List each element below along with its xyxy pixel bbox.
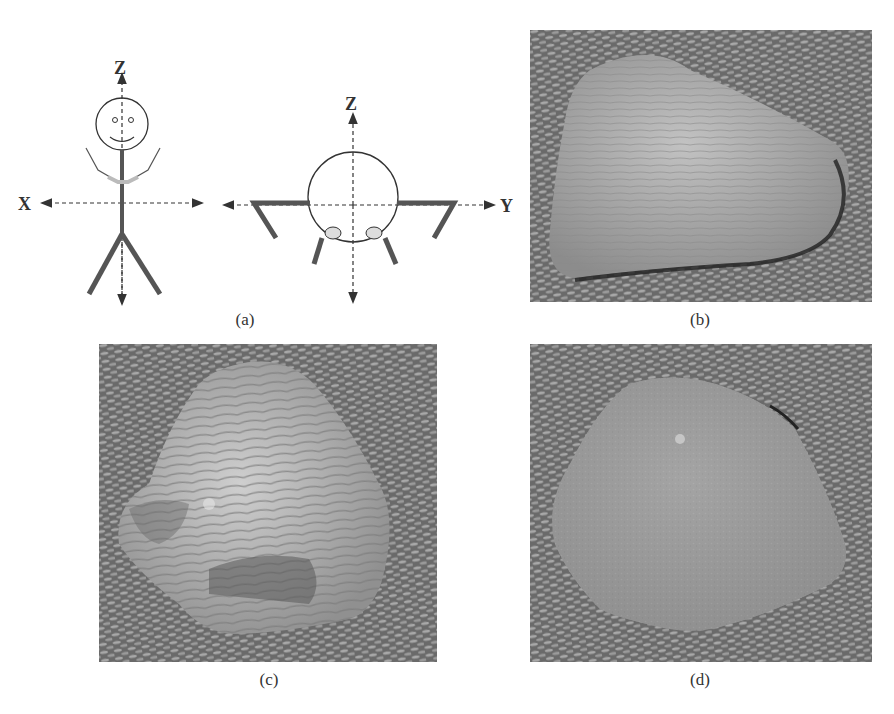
caption-b: (b) xyxy=(680,310,720,330)
panel-c-photo xyxy=(99,344,437,662)
z-axis-label-left: Z xyxy=(114,60,126,78)
y-axis-label: Y xyxy=(500,196,513,216)
front-view-figure: Z X xyxy=(18,60,198,300)
caption-d: (d) xyxy=(680,670,720,690)
caption-c: (c) xyxy=(249,670,289,690)
panel-a-diagram: Z X Z xyxy=(0,60,520,310)
stone-b-image xyxy=(530,30,872,302)
panel-b-photo xyxy=(530,30,872,302)
coordinate-diagram: Z X Z xyxy=(0,60,520,310)
z-axis-label-right: Z xyxy=(345,94,357,114)
stone-d-image xyxy=(530,344,872,662)
caption-a: (a) xyxy=(225,310,265,330)
x-axis-label: X xyxy=(18,194,31,214)
top-view-figure: Z Y xyxy=(228,94,513,298)
panel-d-photo xyxy=(530,344,872,662)
stone-c-image xyxy=(99,344,437,662)
